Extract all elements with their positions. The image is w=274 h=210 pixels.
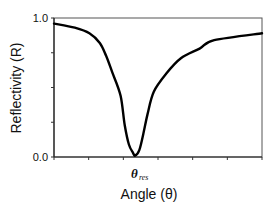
x-axis-label: Angle (θ) <box>121 186 178 202</box>
y-tick-label-top: 1.0 <box>33 12 48 24</box>
theta-res-symbol: θ <box>131 166 138 181</box>
y-tick-label-bottom: 0.0 <box>33 151 48 163</box>
theta-res-subscript: res <box>139 173 148 182</box>
reflectivity-curve <box>54 24 262 156</box>
y-axis-label: Reflectivity (R) <box>8 42 24 133</box>
reflectivity-chart: 1.0 0.0 Reflectivity (R) θ res Angle (θ) <box>0 0 274 210</box>
plot-frame <box>54 18 262 157</box>
theta-res-annotation: θ res <box>131 166 148 182</box>
